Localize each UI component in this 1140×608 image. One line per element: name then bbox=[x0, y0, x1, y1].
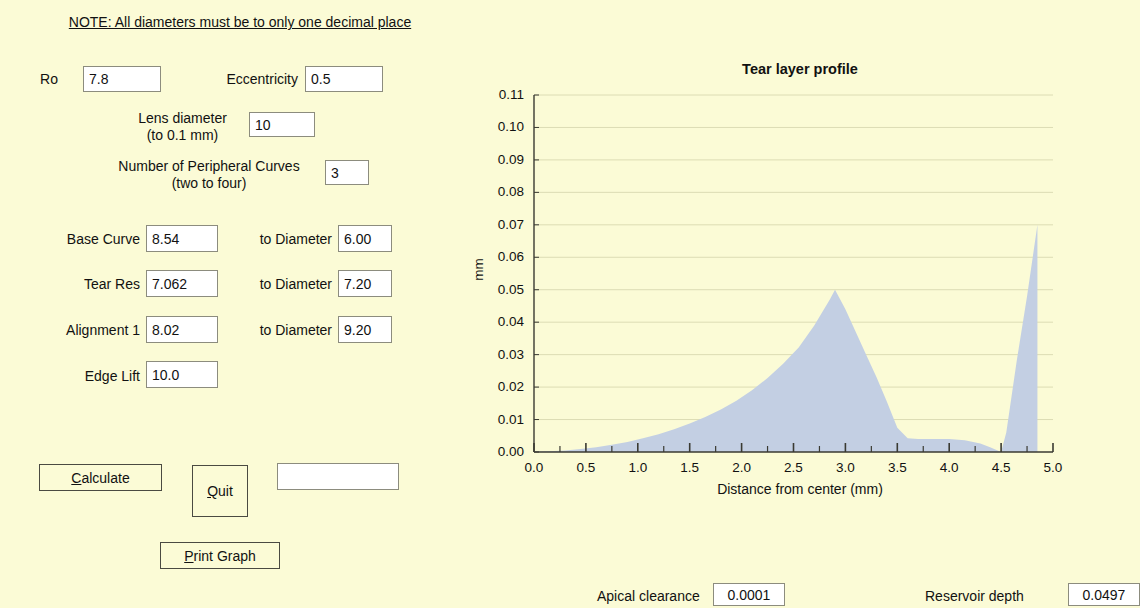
chart-y-tick-label: 0.04 bbox=[462, 315, 524, 329]
chart-x-tick-label: 3.0 bbox=[820, 461, 870, 475]
eccentricity-input[interactable]: 0.5 bbox=[305, 66, 383, 92]
calculate-accel: C bbox=[71, 470, 81, 486]
chart-x-tick-label: 0.0 bbox=[509, 461, 559, 475]
print-graph-accel: P bbox=[184, 548, 193, 564]
base-curve-input[interactable]: 8.54 bbox=[146, 225, 218, 252]
base-curve-label: Base Curve bbox=[36, 231, 140, 248]
chart-x-tick-label: 1.0 bbox=[613, 461, 663, 475]
chart-y-tick-label: 0.06 bbox=[462, 250, 524, 264]
chart-x-axis-label: Distance from center (mm) bbox=[660, 481, 940, 497]
base-curve-diameter-input[interactable]: 6.00 bbox=[338, 225, 392, 252]
chart-y-tick-label: 0.09 bbox=[462, 153, 524, 167]
tear-res-input[interactable]: 7.062 bbox=[146, 270, 218, 297]
chart-y-tick-label: 0.07 bbox=[462, 218, 524, 232]
tear-res-label: Tear Res bbox=[36, 276, 140, 293]
note-text: NOTE: All diameters must be to only one … bbox=[40, 12, 440, 32]
peripheral-curves-label: Number of Peripheral Curves (two to four… bbox=[98, 158, 320, 192]
chart-y-tick-label: 0.08 bbox=[462, 185, 524, 199]
chart-title: Tear layer profile bbox=[680, 61, 920, 77]
tear-res-diameter-input[interactable]: 7.20 bbox=[338, 270, 392, 297]
ro-input[interactable]: 7.8 bbox=[83, 66, 161, 92]
calculate-button[interactable]: Calculate bbox=[39, 464, 162, 491]
result-output-box[interactable] bbox=[277, 463, 399, 490]
peripheral-curves-input[interactable]: 3 bbox=[325, 160, 369, 185]
chart-x-tick-label: 4.5 bbox=[976, 461, 1026, 475]
lens-diameter-label: Lens diameter (to 0.1 mm) bbox=[120, 110, 245, 144]
alignment-1-diameter-input[interactable]: 9.20 bbox=[338, 316, 392, 343]
reservoir-depth-label: Reservoir depth bbox=[925, 588, 1045, 605]
lens-diameter-input[interactable]: 10 bbox=[249, 112, 315, 137]
alignment-1-diameter-label: to Diameter bbox=[232, 322, 332, 339]
chart-y-tick-label: 0.10 bbox=[462, 120, 524, 134]
chart-y-tick-label: 0.01 bbox=[462, 413, 524, 427]
tear-res-diameter-label: to Diameter bbox=[232, 276, 332, 293]
edge-lift-input[interactable]: 10.0 bbox=[146, 361, 218, 388]
base-curve-diameter-label: to Diameter bbox=[232, 231, 332, 248]
chart-y-tick-label: 0.00 bbox=[462, 445, 524, 459]
quit-label: uit bbox=[218, 483, 233, 499]
chart-x-tick-label: 3.5 bbox=[872, 461, 922, 475]
calculate-label: alculate bbox=[81, 470, 129, 486]
reservoir-depth-value: 0.0497 bbox=[1068, 583, 1140, 606]
ro-label: Ro bbox=[18, 71, 58, 88]
chart-x-tick-label: 2.0 bbox=[717, 461, 767, 475]
chart-x-tick-label: 4.0 bbox=[924, 461, 974, 475]
chart-y-tick-label: 0.11 bbox=[462, 88, 524, 102]
chart-x-tick-label: 0.5 bbox=[561, 461, 611, 475]
chart-y-tick-label: 0.02 bbox=[462, 380, 524, 394]
print-graph-button[interactable]: Print Graph bbox=[160, 542, 280, 569]
eccentricity-label: Eccentricity bbox=[178, 71, 298, 88]
chart-y-tick-label: 0.05 bbox=[462, 283, 524, 297]
edge-lift-label: Edge Lift bbox=[36, 368, 140, 385]
chart-x-tick-label: 5.0 bbox=[1028, 461, 1078, 475]
quit-button[interactable]: Quit bbox=[192, 465, 248, 517]
apical-clearance-value: 0.0001 bbox=[713, 583, 785, 606]
chart-y-tick-label: 0.03 bbox=[462, 348, 524, 362]
chart-x-tick-label: 2.5 bbox=[769, 461, 819, 475]
quit-accel: Q bbox=[207, 483, 218, 499]
chart-x-tick-label: 1.5 bbox=[665, 461, 715, 475]
apical-clearance-label: Apical clearance bbox=[597, 588, 717, 605]
print-graph-label: rint Graph bbox=[194, 548, 256, 564]
alignment-1-label: Alignment 1 bbox=[36, 322, 140, 339]
alignment-1-input[interactable]: 8.02 bbox=[146, 316, 218, 343]
